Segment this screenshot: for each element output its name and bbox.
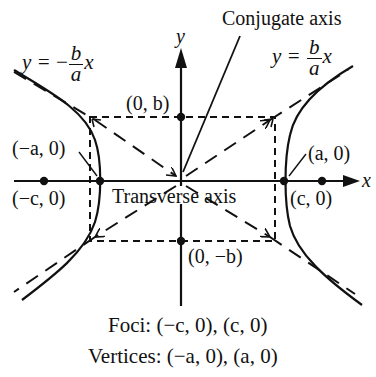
- y-axis-arrow-icon: [175, 48, 187, 68]
- pos-vertex-dot: [280, 177, 288, 185]
- conjugate-axis-label: Conjugate axis: [222, 8, 341, 28]
- neg-focus-label: (−c, 0): [12, 188, 65, 208]
- y-axis-label: y: [176, 26, 185, 46]
- fraction-b-over-a: ba: [307, 38, 322, 79]
- asymptote-negative-equation: y = −bax: [22, 44, 94, 85]
- pos-vertex-label: (a, 0): [308, 143, 350, 163]
- fraction-b-over-a: ba: [69, 44, 84, 85]
- conjugate-axis-callout-line: [183, 36, 240, 172]
- hyperbola-left-branch: [14, 70, 100, 300]
- foci-summary: Foci: (−c, 0), (c, 0): [108, 315, 267, 336]
- neg-vertex-label: (−a, 0): [12, 138, 65, 158]
- transverse-axis-label: Transverse axis: [112, 186, 236, 206]
- co-vertex-bottom-dot: [177, 237, 185, 245]
- co-vertex-top-label: (0, b): [126, 93, 169, 113]
- co-vertex-bottom-label: (0, −b): [188, 246, 243, 266]
- neg-vertex-leader: [79, 152, 97, 176]
- pos-vertex-leader: [289, 154, 306, 176]
- hyperbola-diagram: y x y = −bax y = bax Conjugate axis Tran…: [0, 0, 376, 377]
- asymptote-positive-equation: y = bax: [272, 38, 332, 79]
- co-vertex-top-dot: [177, 113, 185, 121]
- pos-focus-label: (c, 0): [290, 188, 332, 208]
- pos-focus-dot: [318, 177, 326, 185]
- x-axis-arrow-icon: [343, 175, 360, 187]
- x-axis-label: x: [362, 170, 371, 190]
- vertices-summary: Vertices: (−a, 0), (a, 0): [88, 346, 278, 367]
- neg-vertex-dot: [96, 177, 104, 185]
- neg-focus-dot: [40, 177, 48, 185]
